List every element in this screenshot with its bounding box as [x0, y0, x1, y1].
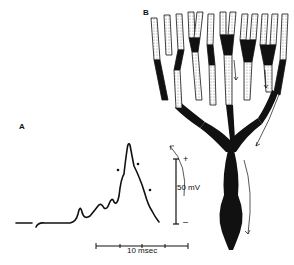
voltage-scale-label: 50 mV: [177, 183, 200, 192]
voltage-trace: [16, 144, 159, 227]
figure-canvas: [0, 0, 294, 265]
purkinje-cell: [151, 12, 288, 250]
positive-sign: +: [183, 154, 188, 164]
negative-sign: –: [183, 217, 188, 227]
time-scale-label: 10 msec: [127, 246, 157, 255]
